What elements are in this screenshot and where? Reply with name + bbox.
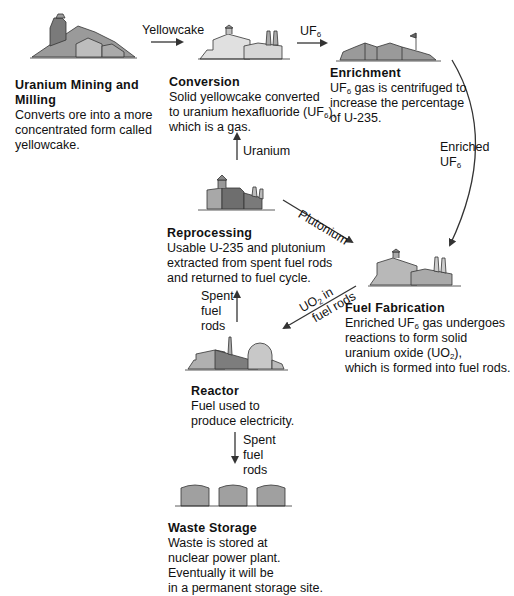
conversion-icon: [198, 25, 290, 59]
stage-reprocessing: Reprocessing Usable U-235 and plutonium …: [167, 226, 332, 286]
flow-label-uf6: UF6: [300, 24, 321, 39]
flow-label-uranium: Uranium: [243, 144, 290, 159]
flow-label-yellowcake: Yellowcake: [142, 23, 204, 38]
fuel-fabrication-icon: [368, 249, 461, 286]
stage-fuel-fabrication: Fuel Fabrication Enriched UF6 gas underg…: [345, 301, 510, 376]
stage-waste-storage: Waste Storage Waste is stored at nuclear…: [168, 521, 323, 596]
enrichment-icon: [336, 33, 441, 61]
stage-mining: Uranium Mining and Milling Converts ore …: [15, 78, 153, 153]
stage-title: Reprocessing: [167, 226, 332, 241]
flow-label-spent-fuel-rods-down: Spent fuel rods: [243, 433, 276, 478]
stage-title: Reactor: [191, 384, 294, 399]
flow-label-enriched-uf6: Enriched UF6: [440, 140, 489, 170]
flow-label-spent-fuel-rods-up: Spent fuel rods: [201, 289, 234, 334]
stage-enrichment: Enrichment UF6 gas is centrifuged to inc…: [330, 66, 466, 126]
stage-title: Waste Storage: [168, 521, 323, 536]
stage-title: Conversion: [169, 75, 336, 90]
waste-storage-icon: [175, 485, 292, 506]
stage-title: Fuel Fabrication: [345, 301, 510, 316]
mining-icon: [30, 14, 137, 58]
stage-title: Milling: [15, 93, 153, 108]
stage-conversion: Conversion Solid yellowcake converted to…: [169, 75, 336, 135]
stage-title: Uranium Mining and: [15, 78, 153, 93]
reactor-icon: [185, 337, 288, 370]
reprocessing-icon: [198, 175, 275, 210]
stage-reactor: Reactor Fuel used to produce electricity…: [191, 384, 294, 429]
stage-title: Enrichment: [330, 66, 466, 81]
